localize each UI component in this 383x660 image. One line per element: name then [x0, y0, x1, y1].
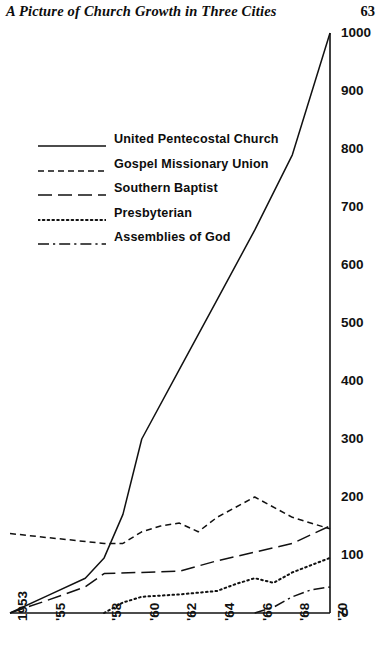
x-tick-label-60: '60 [148, 603, 162, 621]
x-tick-label-58: '58 [110, 603, 124, 621]
legend-label: Gospel Missionary Union [114, 157, 269, 171]
y-tick-label-200: 200 [341, 490, 364, 504]
legend-line-sample-solid [38, 138, 106, 150]
x-tick-label-70: '70 [336, 603, 350, 621]
chart-series-layer [10, 33, 330, 613]
y-tick-label-700: 700 [341, 200, 364, 214]
y-tick-label-900: 900 [341, 84, 364, 98]
y-tick-label-100: 100 [341, 548, 364, 562]
legend-label: Presbyterian [114, 206, 192, 220]
y-tick-label-400: 400 [341, 374, 364, 388]
series-line-southern-baptist [10, 526, 330, 613]
legend-line-sample-dash-dot [38, 236, 106, 248]
y-tick-label-600: 600 [341, 258, 364, 272]
y-tick-label-800: 800 [341, 142, 364, 156]
chart-plot-area: 10009008007006005004003002001000 1953'55… [0, 0, 383, 660]
x-tick-label-64: '64 [223, 603, 237, 621]
legend-label: Southern Baptist [114, 181, 218, 195]
chart-legend: United Pentecostal ChurchGospel Missiona… [38, 132, 288, 255]
x-tick-label-62: '62 [185, 603, 199, 621]
x-tick-label-55: '55 [54, 603, 68, 621]
y-tick-label-300: 300 [341, 432, 364, 446]
y-tick-label-1000: 1000 [341, 26, 371, 40]
legend-item-united-pentecostal-church: United Pentecostal Church [38, 132, 288, 157]
legend-item-southern-baptist: Southern Baptist [38, 181, 288, 206]
legend-line-sample-long-dash [38, 187, 106, 199]
legend-label: United Pentecostal Church [114, 132, 279, 146]
legend-line-sample-dotted [38, 212, 106, 224]
x-tick-label-68: '68 [298, 603, 312, 621]
y-tick-label-500: 500 [341, 316, 364, 330]
series-line-gospel-missionary-union [10, 497, 330, 543]
legend-item-assemblies-of-god: Assemblies of God [38, 230, 288, 255]
legend-item-presbyterian: Presbyterian [38, 206, 288, 231]
chart-svg [0, 0, 383, 660]
legend-line-sample-dashed [38, 163, 106, 175]
series-line-united-pentecostal-church [10, 33, 330, 613]
legend-label: Assemblies of God [114, 230, 231, 244]
x-tick-label-1953: 1953 [16, 591, 30, 621]
legend-item-gospel-missionary-union: Gospel Missionary Union [38, 157, 288, 182]
x-tick-label-66: '66 [261, 603, 275, 621]
